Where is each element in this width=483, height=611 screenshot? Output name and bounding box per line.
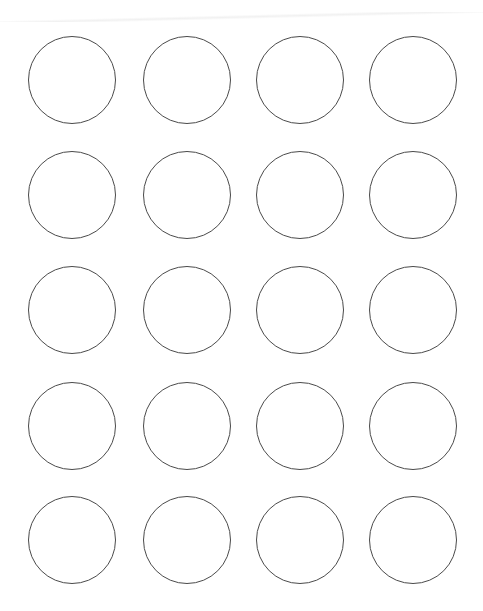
label-circle-r3-c4 — [369, 266, 457, 354]
label-circle-r5-c4 — [369, 496, 457, 584]
label-circle-r4-c3 — [256, 382, 344, 470]
label-circle-r3-c3 — [256, 266, 344, 354]
label-circle-r2-c2 — [143, 151, 231, 239]
label-circle-r5-c1 — [28, 496, 116, 584]
label-circle-r4-c1 — [28, 382, 116, 470]
label-circle-r2-c3 — [256, 151, 344, 239]
label-circle-r4-c2 — [143, 382, 231, 470]
label-circle-r5-c3 — [256, 496, 344, 584]
label-circle-r3-c1 — [28, 266, 116, 354]
label-circle-r4-c4 — [369, 382, 457, 470]
label-circle-r5-c2 — [143, 496, 231, 584]
label-circle-r1-c4 — [369, 36, 457, 124]
label-sheet — [0, 0, 483, 611]
label-circle-r1-c2 — [143, 36, 231, 124]
label-circle-r2-c1 — [28, 151, 116, 239]
label-circle-r3-c2 — [143, 266, 231, 354]
label-circle-r1-c3 — [256, 36, 344, 124]
label-circle-r1-c1 — [28, 36, 116, 124]
paper-edge — [0, 12, 483, 22]
label-circle-r2-c4 — [369, 151, 457, 239]
